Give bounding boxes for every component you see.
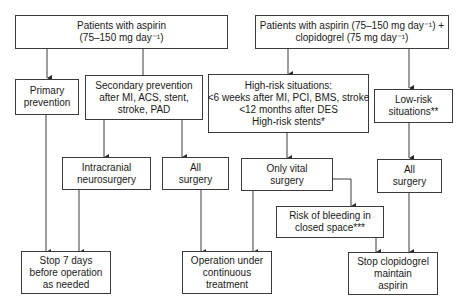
node-stop-clopidogrel: Stop clopidogrel maintain aspirin [348, 252, 438, 295]
node-high-risk-line3: <12 months after DES [239, 104, 338, 116]
node-stop-7-days-line1: Stop 7 days [40, 255, 93, 267]
node-secondary-prevention: Secondary prevention after MI, ACS, sten… [85, 75, 203, 120]
node-primary-prevention-line2: prevention [24, 97, 71, 109]
node-all-surgery-left: All surgery [162, 157, 229, 190]
node-only-vital-line1: Only vital [266, 163, 307, 175]
node-stop-7-days-line2: before operation [30, 267, 103, 279]
node-aspirin-root-line2: (75–150 mg day⁻¹) [80, 32, 164, 44]
node-stop-clopidogrel-line3: aspirin [378, 280, 407, 292]
node-secondary-prevention-line3: stroke, PAD [118, 104, 171, 116]
node-dual-root: Patients with aspirin (75–150 mg day⁻¹) … [255, 15, 449, 49]
node-intracranial-neurosurgery: Intracranial neurosurgery [62, 157, 151, 190]
node-aspirin-root-line1: Patients with aspirin [77, 20, 166, 32]
node-intracranial-line2: neurosurgery [77, 174, 136, 186]
node-stop-7-days-line3: as needed [43, 279, 90, 291]
node-low-risk: Low-risk situations** [374, 89, 453, 123]
node-all-surgery-left-line2: surgery [179, 174, 212, 186]
node-high-risk: High-risk situations: <6 weeks after MI,… [208, 74, 369, 133]
node-aspirin-root: Patients with aspirin (75–150 mg day⁻¹) [15, 15, 228, 49]
node-risk-bleeding-line1: Risk of bleeding in [289, 210, 371, 222]
node-all-surgery-left-line1: All [190, 162, 201, 174]
node-low-risk-line1: Low-risk [395, 94, 432, 106]
node-primary-prevention-line1: Primary [30, 85, 64, 97]
node-stop-7-days: Stop 7 days before operation as needed [21, 251, 111, 294]
node-primary-prevention: Primary prevention [15, 79, 79, 115]
edge-onlyvital-to-riskbleeding [332, 179, 351, 206]
node-risk-bleeding-line2: closed space*** [295, 222, 365, 234]
node-dual-root-line2: clopidogrel (75 mg day⁻¹) [296, 32, 409, 44]
node-intracranial-line1: Intracranial [82, 162, 131, 174]
node-high-risk-line2: <6 weeks after MI, PCI, BMS, stroke [208, 92, 369, 104]
node-only-vital-line2: surgery [270, 175, 303, 187]
node-only-vital-surgery: Only vital surgery [241, 158, 333, 191]
node-stop-clopidogrel-line1: Stop clopidogrel [357, 256, 429, 268]
node-secondary-prevention-line1: Secondary prevention [95, 80, 192, 92]
node-dual-root-line1: Patients with aspirin (75–150 mg day⁻¹) … [260, 20, 444, 32]
node-operation-continuous: Operation under continuous treatment [182, 251, 272, 294]
node-all-surgery-right-line1: All [404, 164, 415, 176]
node-stop-clopidogrel-line2: maintain [374, 268, 412, 280]
node-operation-continuous-line1: Operation under [191, 255, 263, 267]
node-high-risk-line4: High-risk stents* [252, 116, 325, 128]
node-operation-continuous-line3: treatment [206, 279, 248, 291]
node-high-risk-line1: High-risk situations: [245, 80, 332, 92]
node-operation-continuous-line2: continuous [203, 267, 251, 279]
node-all-surgery-right-line2: surgery [393, 176, 426, 188]
node-all-surgery-right: All surgery [377, 159, 442, 193]
node-low-risk-line2: situations** [388, 106, 438, 118]
node-risk-bleeding: Risk of bleeding in closed space*** [276, 206, 384, 238]
node-secondary-prevention-line2: after MI, ACS, stent, [99, 92, 188, 104]
